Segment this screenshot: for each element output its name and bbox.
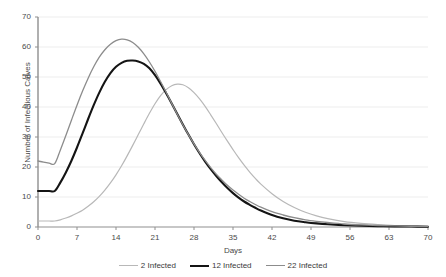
chart-container: 010203040506070 07142128354249566370 Num…	[0, 0, 446, 277]
x-tick-label: 14	[106, 233, 126, 242]
x-tick-label: 42	[262, 233, 282, 242]
y-tick-label: 10	[11, 192, 31, 201]
x-tick-label: 0	[28, 233, 48, 242]
series-line-0	[38, 84, 428, 226]
x-tick-label: 35	[223, 233, 243, 242]
legend-swatch-icon	[119, 265, 138, 266]
legend-swatch-icon	[266, 265, 285, 266]
series-line-2	[38, 39, 428, 226]
x-tick-label: 56	[340, 233, 360, 242]
x-axis-title: Days	[38, 246, 428, 255]
y-axis-title: Number of Infectious Calves	[23, 38, 32, 188]
legend-label: 12 Infected	[212, 261, 252, 270]
x-tick-label: 63	[379, 233, 399, 242]
legend-item[interactable]: 2 Infected	[119, 261, 176, 270]
legend-item[interactable]: 12 Infected	[190, 261, 252, 270]
x-tick-label: 7	[67, 233, 87, 242]
legend-swatch-icon	[190, 265, 209, 267]
legend-label: 2 Infected	[141, 261, 176, 270]
x-tick-label: 21	[145, 233, 165, 242]
x-tick-label: 70	[418, 233, 438, 242]
legend-label: 22 Infected	[288, 261, 328, 270]
series-line-1	[38, 60, 428, 226]
y-tick-label: 0	[11, 222, 31, 231]
x-tick-label: 28	[184, 233, 204, 242]
y-tick-label: 70	[11, 12, 31, 21]
chart-legend: 2 Infected12 Infected22 Infected	[0, 261, 446, 270]
x-tick-label: 49	[301, 233, 321, 242]
legend-item[interactable]: 22 Infected	[266, 261, 328, 270]
